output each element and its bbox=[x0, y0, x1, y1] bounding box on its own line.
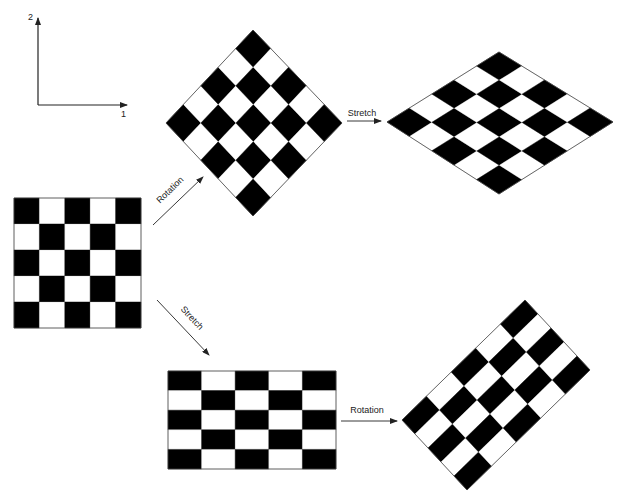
coordinate-axes: 1 2 bbox=[28, 12, 127, 119]
dark-cell bbox=[235, 449, 269, 469]
arrow-label: Stretch bbox=[348, 108, 377, 118]
stretched-then-rotated-checkerboard bbox=[402, 300, 590, 490]
dark-cell bbox=[202, 391, 236, 411]
dark-cell bbox=[168, 410, 202, 430]
light-cell bbox=[14, 276, 39, 302]
dark-cell bbox=[202, 430, 236, 450]
light-cell bbox=[269, 371, 303, 391]
dark-cell bbox=[39, 276, 64, 302]
axis-2-label: 2 bbox=[28, 12, 33, 22]
light-cell bbox=[235, 430, 269, 450]
dark-cell bbox=[269, 430, 303, 450]
dark-cell bbox=[116, 198, 141, 224]
dark-cell bbox=[116, 250, 141, 276]
light-cell bbox=[116, 224, 141, 250]
rotation-arrow-lower: Rotation bbox=[341, 405, 397, 421]
light-cell bbox=[90, 198, 115, 224]
light-cell bbox=[90, 302, 115, 328]
stretched-rectangle-checkerboard bbox=[168, 371, 336, 469]
light-cell bbox=[116, 276, 141, 302]
dark-cell bbox=[269, 391, 303, 411]
light-cell bbox=[202, 410, 236, 430]
dark-cell bbox=[65, 302, 90, 328]
light-cell bbox=[65, 224, 90, 250]
arrow-label: Rotation bbox=[154, 175, 185, 205]
dark-cell bbox=[116, 302, 141, 328]
light-cell bbox=[168, 430, 202, 450]
dark-cell bbox=[235, 410, 269, 430]
dark-cell bbox=[39, 224, 64, 250]
light-cell bbox=[302, 430, 336, 450]
light-cell bbox=[39, 198, 64, 224]
light-cell bbox=[90, 250, 115, 276]
dark-cell bbox=[302, 371, 336, 391]
light-cell bbox=[202, 449, 236, 469]
light-cell bbox=[168, 391, 202, 411]
light-cell bbox=[39, 250, 64, 276]
light-cell bbox=[202, 371, 236, 391]
light-cell bbox=[14, 224, 39, 250]
dark-cell bbox=[168, 449, 202, 469]
dark-cell bbox=[14, 250, 39, 276]
original-square-checkerboard bbox=[14, 198, 141, 328]
rotated-then-stretched-checkerboard bbox=[387, 52, 613, 194]
light-cell bbox=[269, 410, 303, 430]
dark-cell bbox=[14, 198, 39, 224]
dark-cell bbox=[90, 224, 115, 250]
dark-cell bbox=[168, 371, 202, 391]
light-cell bbox=[269, 449, 303, 469]
rotation-arrow-upper: Rotation bbox=[153, 175, 203, 225]
light-cell bbox=[235, 391, 269, 411]
checkerboards bbox=[14, 30, 613, 490]
arrow-label: Rotation bbox=[350, 405, 384, 415]
dark-cell bbox=[65, 250, 90, 276]
rotated-square-checkerboard bbox=[166, 30, 342, 216]
stretch-arrow-lower: Stretch bbox=[157, 300, 209, 355]
dark-cell bbox=[65, 198, 90, 224]
light-cell bbox=[302, 391, 336, 411]
dark-cell bbox=[235, 371, 269, 391]
light-cell bbox=[65, 276, 90, 302]
dark-cell bbox=[302, 449, 336, 469]
light-cell bbox=[39, 302, 64, 328]
dark-cell bbox=[90, 276, 115, 302]
stretch-arrow-upper: Stretch bbox=[347, 108, 381, 121]
dark-cell bbox=[302, 410, 336, 430]
transformation-diagram: 1 2 RotationStretchStretchRotation bbox=[0, 0, 625, 500]
dark-cell bbox=[14, 302, 39, 328]
axis-1-label: 1 bbox=[121, 109, 126, 119]
